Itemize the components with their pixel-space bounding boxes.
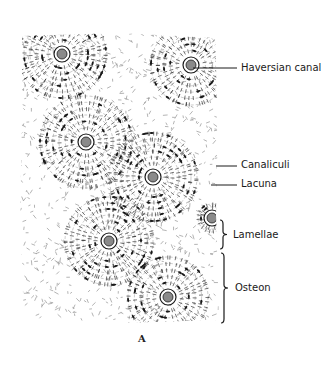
osteon (39, 95, 134, 190)
label-canaliculi: Canaliculi (241, 159, 290, 171)
label-lamellae: Lamellae (233, 229, 278, 241)
label-osteon: Osteon (235, 282, 271, 294)
label-lacuna: Lacuna (241, 178, 277, 190)
bone-histology-figure: Haversian canalCanaliculiLacunaLamellaeO… (0, 0, 333, 366)
osteon (150, 24, 233, 107)
lamellae-brace (220, 220, 227, 249)
osteon-brace (221, 253, 228, 323)
compact-bone-illustration (0, 0, 333, 366)
osteon (127, 256, 210, 339)
label-haversian-canal: Haversian canal (241, 62, 321, 74)
osteon (108, 132, 199, 223)
osteon (64, 196, 155, 287)
osteon (17, 9, 108, 100)
figure-caption: A (138, 333, 146, 344)
